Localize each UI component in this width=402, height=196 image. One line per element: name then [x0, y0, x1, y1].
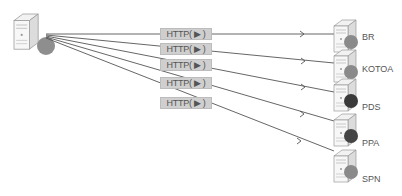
connection-label-kotoa[interactable]: HTTP( ▶ ) — [160, 43, 212, 55]
connection-label-spn[interactable]: HTTP( ▶ ) — [160, 97, 212, 109]
source-status-icon — [37, 37, 55, 55]
server-name-ppa: PPA — [362, 138, 379, 148]
server-name-spn: SPN — [362, 174, 381, 184]
connection-label-ppa[interactable]: HTTP( ▶ ) — [160, 77, 212, 89]
server-name-br: BR — [362, 32, 375, 42]
server-name-kotoa: KOTOA — [362, 64, 393, 74]
server-name-pds: PDS — [362, 102, 381, 112]
connection-label-pds[interactable]: HTTP( ▶ ) — [160, 59, 212, 71]
connection-label-br[interactable]: HTTP( ▶ ) — [160, 28, 212, 40]
source-server-icon — [14, 14, 38, 49]
